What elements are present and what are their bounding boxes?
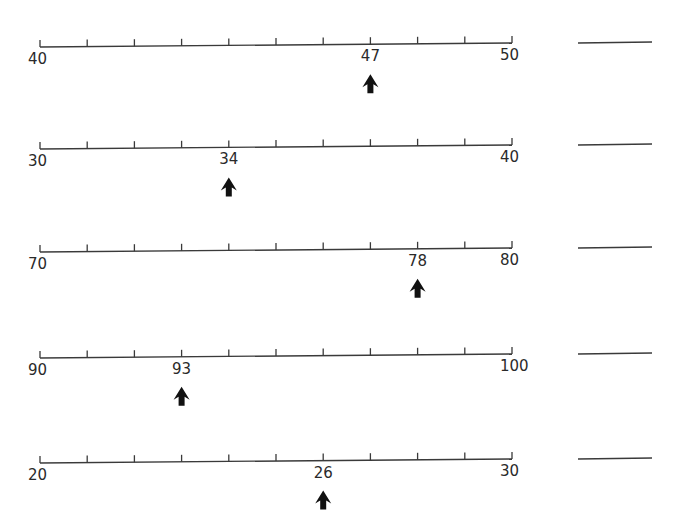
end-label: 40 — [500, 148, 519, 166]
marked-value-label: 47 — [361, 47, 380, 65]
start-label: 20 — [28, 466, 47, 484]
up-arrow-icon — [362, 74, 378, 93]
start-label: 40 — [28, 50, 47, 68]
number-line-row: 405047 — [28, 36, 652, 93]
end-label: 80 — [500, 251, 519, 269]
start-label: 30 — [28, 152, 47, 170]
number-line-row: 708078 — [28, 241, 652, 298]
number-line-row: 9010093 — [28, 347, 652, 406]
answer-blank[interactable] — [578, 353, 652, 354]
number-line-row: 304034 — [28, 138, 652, 196]
number-line-worksheet: 4050473040347080789010093203026 — [0, 0, 683, 524]
up-arrow-icon — [221, 177, 237, 196]
end-label: 50 — [500, 46, 519, 64]
up-arrow-icon — [315, 491, 331, 510]
marked-value-label: 93 — [172, 360, 191, 378]
answer-blank[interactable] — [578, 144, 652, 145]
number-line-row: 203026 — [28, 452, 652, 510]
up-arrow-icon — [174, 387, 190, 406]
marked-value-label: 78 — [408, 252, 427, 270]
up-arrow-icon — [410, 279, 426, 298]
answer-blank[interactable] — [578, 458, 652, 459]
answer-blank[interactable] — [578, 247, 652, 248]
end-label: 100 — [500, 357, 529, 375]
start-label: 70 — [28, 255, 47, 273]
start-label: 90 — [28, 361, 47, 379]
marked-value-label: 26 — [314, 464, 333, 482]
end-label: 30 — [500, 462, 519, 480]
marked-value-label: 34 — [219, 150, 238, 168]
answer-blank[interactable] — [578, 42, 652, 43]
